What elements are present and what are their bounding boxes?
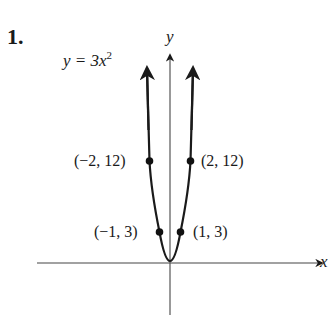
point-neg1-3: [156, 228, 164, 236]
label-2-12: (2, 12): [201, 152, 244, 170]
label-neg2-12: (−2, 12): [74, 152, 126, 170]
point-1-3: [177, 228, 185, 236]
label-neg1-3: (−1, 3): [94, 223, 138, 241]
y-axis-label: y: [166, 27, 174, 47]
parabola-plot: [0, 0, 331, 317]
point-2-12: [187, 157, 195, 165]
x-axis-label: x: [320, 252, 328, 272]
point-neg2-12: [146, 157, 154, 165]
label-1-3: (1, 3): [193, 223, 228, 241]
